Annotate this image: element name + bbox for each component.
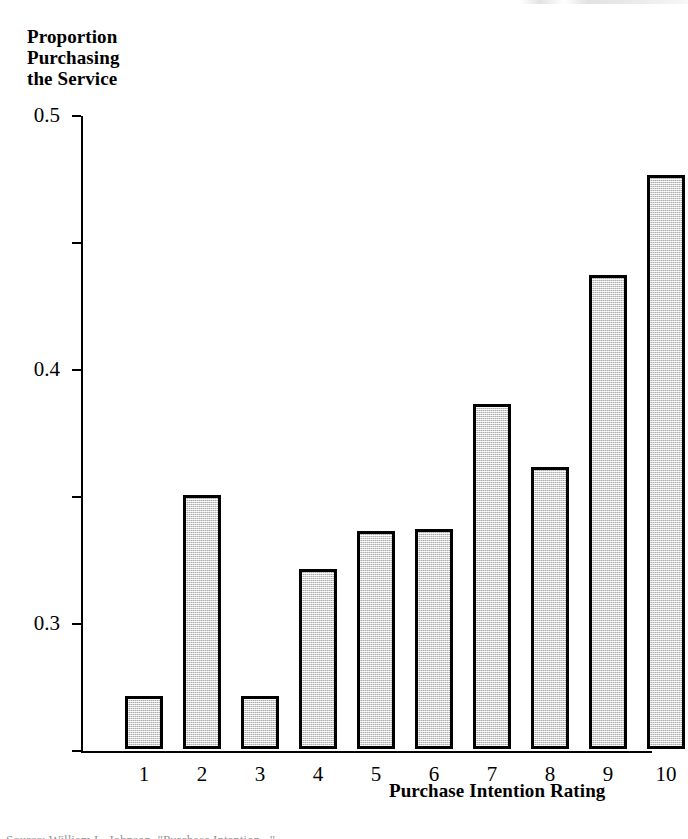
bar-3 <box>241 696 279 749</box>
bar-7 <box>473 404 511 749</box>
y-axis-title-line-3: the Service <box>27 68 207 89</box>
y-axis-title-line-1: Proportion <box>27 26 207 47</box>
bar-6 <box>415 529 453 749</box>
y-axis-line <box>81 116 83 751</box>
y-axis-title-line-2: Purchasing <box>27 47 207 68</box>
x-axis-tick-label: 4 <box>313 764 324 785</box>
y-axis-title: Proportion Purchasing the Service <box>27 26 207 89</box>
y-axis-tick-label: 0.5 <box>34 105 60 126</box>
y-axis-tick: 0.0 <box>72 750 81 752</box>
x-axis-line <box>81 751 652 753</box>
x-axis-tick-label: 10 <box>656 764 677 785</box>
y-axis-tick-label: 0.3 <box>34 613 60 634</box>
x-axis-tick-label: 2 <box>197 764 208 785</box>
bar-9 <box>589 275 627 749</box>
bar-2 <box>183 495 221 749</box>
bar-chart-figure: Proportion Purchasing the Service 0.00.1… <box>0 0 688 839</box>
bar-4 <box>299 569 337 749</box>
x-axis-tick-label: 5 <box>371 764 382 785</box>
bar-8 <box>531 467 569 749</box>
x-axis-title: Purchase Intention Rating <box>389 780 605 802</box>
y-axis-tick: 0.4 <box>72 242 81 244</box>
bar-10 <box>647 175 685 749</box>
y-axis-tick: 0.3 <box>72 369 81 371</box>
x-axis-tick-label: 3 <box>255 764 266 785</box>
y-axis-tick: 0.2 <box>72 496 81 498</box>
scan-artifact-smudge <box>520 0 688 4</box>
bar-1 <box>125 696 163 749</box>
source-caption: Source: William L. Johnson, "Purchase In… <box>6 832 426 839</box>
y-axis-tick: 0.5 <box>72 115 81 117</box>
bar-5 <box>357 531 395 749</box>
plot-area: 0.00.10.20.30.40.5 12345678910 <box>81 116 652 751</box>
x-axis-tick-label: 1 <box>139 764 150 785</box>
y-axis-tick: 0.1 <box>72 623 81 625</box>
y-axis-tick-label: 0.4 <box>34 359 60 380</box>
